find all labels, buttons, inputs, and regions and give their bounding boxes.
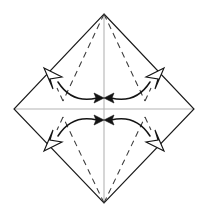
arc-upper-right-to-center	[111, 82, 150, 99]
crease-top-right-short	[145, 88, 151, 101]
open-arrowhead-upper-right	[146, 68, 164, 89]
crease-bottom-left-short	[57, 117, 63, 130]
origami-fold-diagram: Origami fold step diagram	[0, 0, 209, 217]
open-arrowhead-upper-left	[44, 68, 62, 89]
crease-top-to-upper-right	[104, 14, 145, 101]
fold-diagram-canvas: Origami fold step diagram	[0, 0, 209, 217]
crease-top-to-upper-left	[63, 14, 104, 101]
crease-bottom-to-lower-left	[63, 117, 104, 203]
crease-bottom-to-lower-right	[104, 117, 145, 203]
center-axes-group	[14, 14, 194, 203]
crease-top-left-short	[57, 88, 63, 101]
crease-bottom-right-short	[145, 117, 151, 130]
arc-lower-left-to-center	[58, 119, 97, 136]
arc-upper-left-to-center	[58, 82, 97, 99]
arc-lower-right-to-center	[111, 119, 150, 136]
